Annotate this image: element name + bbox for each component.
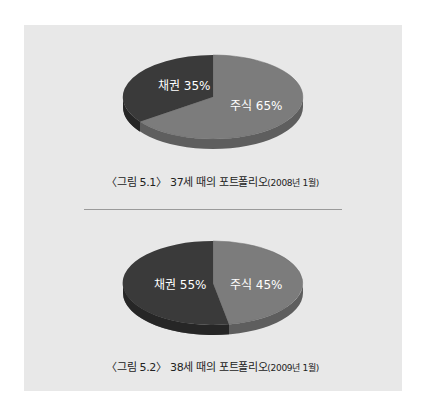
- caption-main: 〈그림 5.1〉 37세 때의 포트폴리오: [106, 176, 267, 189]
- pie-label-stock: 주식 45%: [230, 278, 283, 292]
- divider: [84, 209, 342, 210]
- pie-label-stock: 주식 65%: [230, 99, 283, 113]
- pie-chart-2008: 채권 35% 주식 65%: [118, 52, 308, 162]
- figure-caption-2009: 〈그림 5.2〉 38세 때의 포트폴리오(2009년 1월): [0, 358, 425, 374]
- caption-sub: (2008년 1월): [267, 178, 319, 188]
- caption-sub: (2009년 1월): [267, 363, 319, 373]
- pie-chart-2009: 채권 55% 주식 45%: [118, 238, 308, 348]
- figure-caption-2008: 〈그림 5.1〉 37세 때의 포트폴리오(2008년 1월): [0, 173, 425, 189]
- pie-label-bond: 채권 35%: [158, 79, 211, 93]
- pie-label-bond: 채권 55%: [154, 278, 207, 292]
- caption-main: 〈그림 5.2〉 38세 때의 포트폴리오: [106, 361, 267, 374]
